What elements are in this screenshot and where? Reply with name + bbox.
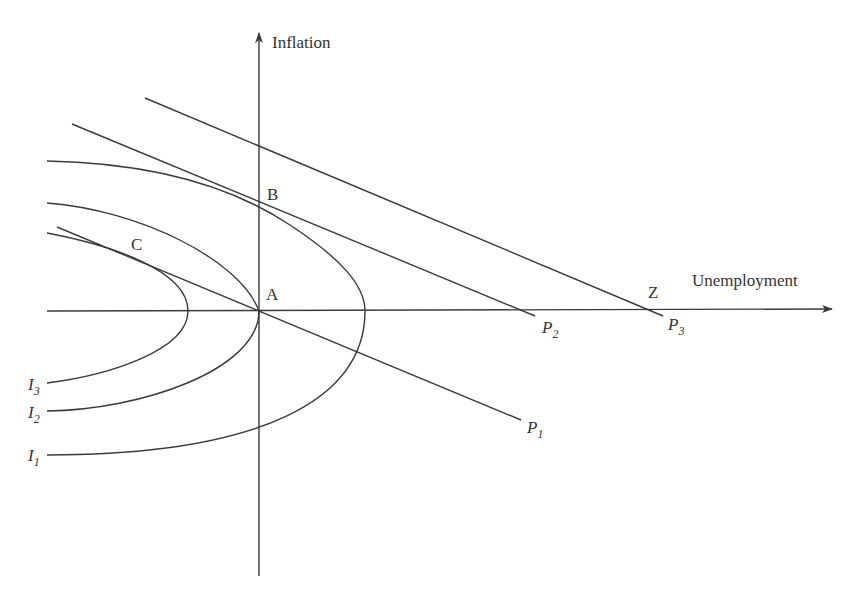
point-label-b: B: [267, 185, 278, 204]
y-axis-label: Inflation: [272, 33, 331, 52]
label-p1: P1: [526, 418, 543, 441]
label-p3: P3: [667, 315, 684, 338]
label-i1: I1: [27, 446, 40, 469]
label-i3: I3: [27, 375, 40, 398]
x-axis-label: Unemployment: [692, 271, 798, 290]
label-i2: I2: [27, 403, 40, 426]
label-p2: P2: [541, 318, 558, 341]
indifference-curve-i3: [47, 233, 188, 383]
point-label-z: Z: [648, 283, 658, 302]
indifference-curve-i1: [47, 161, 365, 455]
phillips-curve-p1: [57, 227, 521, 420]
indifference-curve-i2: [47, 203, 259, 411]
phillips-curve-diagram: Inflation Unemployment A B C Z I3 I2 I1 …: [0, 0, 851, 608]
point-label-c: C: [131, 235, 142, 254]
unemployment-axis: [47, 309, 832, 311]
point-label-a: A: [266, 285, 279, 304]
phillips-curve-p3: [145, 98, 663, 316]
phillips-curve-p2: [72, 124, 535, 316]
